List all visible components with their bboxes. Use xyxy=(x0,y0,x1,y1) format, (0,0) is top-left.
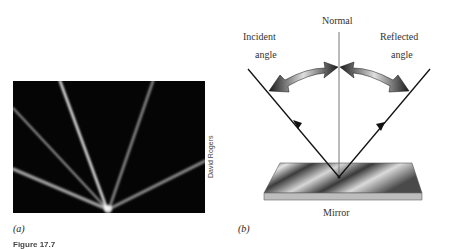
photo-credit: David Rogers xyxy=(207,138,219,178)
reflection-diagram: Normal Incident angle Reflected angle Mi… xyxy=(225,0,450,246)
reflected-label-line2: angle xyxy=(391,49,413,60)
figure-caption: Figure 17.7 xyxy=(13,240,55,249)
normal-label: Normal xyxy=(322,15,353,26)
reflected-angle-arrow-icon xyxy=(340,62,409,92)
reflected-arrowhead-icon xyxy=(376,122,385,131)
reflected-label-line1: Reflected xyxy=(380,31,418,42)
laser-reflection-photo xyxy=(13,81,205,213)
mirror xyxy=(264,163,422,200)
panel-b-label: (b) xyxy=(238,223,250,234)
panel-a-label: (a) xyxy=(13,223,25,234)
incident-angle-arrow-icon xyxy=(269,62,338,92)
incident-label-line2: angle xyxy=(255,49,277,60)
incident-label-line1: Incident xyxy=(243,31,276,42)
incident-ray xyxy=(248,69,339,177)
laser-beams-graphic xyxy=(13,81,205,213)
mirror-label: Mirror xyxy=(323,207,350,218)
